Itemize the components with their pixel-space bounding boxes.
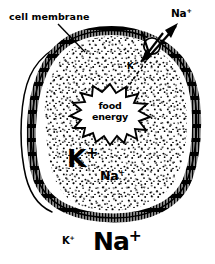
label-potassium-inside-charge: + bbox=[85, 144, 97, 162]
label-food-energy: foodenergy bbox=[92, 101, 128, 122]
label-sodium-outside-bottom: Na+ bbox=[93, 229, 141, 254]
label-food-energy-line2: energy bbox=[92, 111, 128, 122]
label-sodium-inside-text: Na bbox=[100, 168, 119, 183]
label-potassium-pump-charge: + bbox=[133, 60, 137, 66]
label-potassium-outside-bottom-text: K bbox=[62, 235, 70, 246]
label-sodium-out-top: Na+ bbox=[171, 8, 192, 19]
label-sodium-outside-bottom-charge: + bbox=[129, 227, 141, 245]
cell-membrane-diagram bbox=[0, 0, 215, 264]
label-sodium-out-top-text: Na bbox=[171, 7, 186, 19]
label-food-energy-line1: food bbox=[98, 100, 121, 111]
label-cell-membrane: cell membrane bbox=[9, 12, 90, 22]
label-sodium-inside: Na+ bbox=[100, 170, 125, 183]
label-potassium-inside-text: K bbox=[67, 144, 85, 173]
label-sodium-out-top-charge: + bbox=[186, 7, 191, 15]
label-sodium-inside-charge: + bbox=[119, 168, 125, 177]
label-potassium-outside-bottom-charge: + bbox=[70, 234, 75, 241]
label-potassium-outside-bottom: K+ bbox=[62, 236, 75, 246]
label-potassium-inside: K+ bbox=[67, 146, 97, 171]
label-sodium-outside-bottom-text: Na bbox=[93, 227, 129, 256]
label-potassium-pump: K+ bbox=[127, 62, 138, 71]
